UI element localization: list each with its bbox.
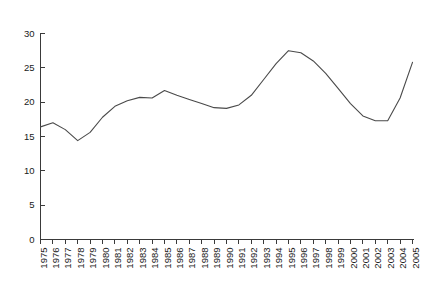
x-tick-label: 2004 — [397, 248, 408, 269]
x-tick-label: 1992 — [248, 248, 259, 269]
x-tick-label: 1993 — [261, 248, 272, 269]
x-tick-label: 1979 — [87, 248, 98, 269]
x-tick-label: 1985 — [162, 248, 173, 269]
x-tick-label: 1991 — [236, 248, 247, 269]
x-tick-label: 1978 — [75, 248, 86, 269]
x-tick-label: 1987 — [186, 248, 197, 269]
y-tick-label: 5 — [29, 199, 34, 210]
data-series-group — [41, 51, 413, 141]
x-tick-label: 2002 — [372, 248, 383, 269]
y-axis: 051015202530 — [24, 28, 45, 245]
x-tick-label: 1997 — [310, 248, 321, 269]
x-tick-label: 2005 — [410, 248, 421, 269]
line-chart-plot: 051015202530 197519761977197819791980198… — [0, 0, 438, 286]
x-tick-label: 1988 — [199, 248, 210, 269]
x-tick-label: 1994 — [273, 248, 284, 269]
x-tick-label: 1998 — [323, 248, 334, 269]
chart-container: 051015202530 197519761977197819791980198… — [0, 0, 438, 286]
x-tick-label: 1990 — [224, 248, 235, 269]
x-tick-label: 1995 — [286, 248, 297, 269]
y-tick-label: 0 — [29, 234, 34, 245]
data-line-1 — [41, 51, 413, 141]
x-tick-label: 1980 — [100, 248, 111, 269]
y-tick-label: 20 — [24, 96, 35, 107]
y-tick-label: 15 — [24, 131, 35, 142]
x-tick-label: 2001 — [360, 248, 371, 269]
y-tick-label: 25 — [24, 62, 35, 73]
x-tick-label: 1977 — [62, 248, 73, 269]
x-tick-label: 2003 — [385, 248, 396, 269]
x-tick-label: 1976 — [50, 248, 61, 269]
x-tick-label: 1982 — [124, 248, 135, 269]
x-tick-label: 1984 — [149, 248, 160, 269]
x-tick-label: 1989 — [211, 248, 222, 269]
x-tick-label: 1975 — [38, 248, 49, 269]
x-tick-label: 1999 — [335, 248, 346, 269]
x-tick-label: 1996 — [298, 248, 309, 269]
x-tick-label: 2000 — [348, 248, 359, 269]
x-axis: 1975197619771978197919801981198219831984… — [38, 240, 421, 269]
x-tick-label: 1986 — [174, 248, 185, 269]
x-tick-label: 1981 — [112, 248, 123, 269]
y-tick-label: 30 — [24, 28, 35, 39]
y-tick-label: 10 — [24, 165, 35, 176]
x-tick-label: 1983 — [137, 248, 148, 269]
